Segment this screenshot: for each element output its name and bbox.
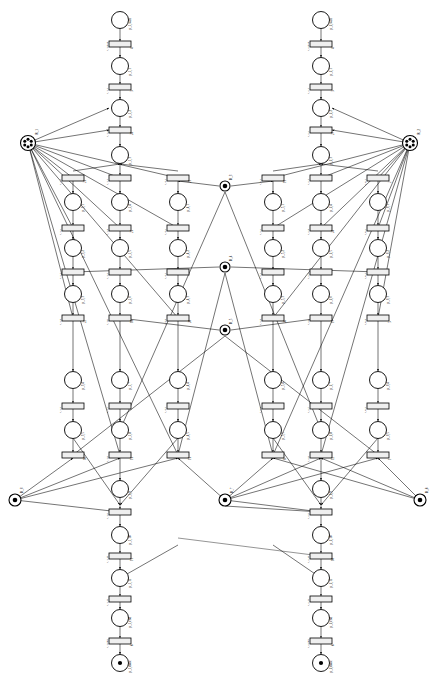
node-label: t_4,5 (163, 407, 167, 414)
node-label: t_1,9 (105, 513, 109, 520)
place-side (170, 240, 187, 257)
node-label: t_3,2 (58, 229, 62, 236)
node-label: t_2,7 (306, 407, 310, 414)
transition-side (62, 225, 84, 231)
node-label: t_5,3 (258, 273, 262, 280)
node-label: p_1,4 (128, 204, 133, 212)
node-label: p_2,5 (329, 250, 334, 258)
node-label: t_1,5 (105, 273, 109, 280)
arc (378, 458, 420, 500)
place-side (170, 194, 187, 211)
node-label: p_5,5 (281, 432, 286, 440)
node-label: t_2,11 (306, 598, 310, 606)
node-label: p_2,11 (329, 578, 334, 587)
arc (332, 108, 410, 143)
arc (321, 458, 420, 500)
node-label: p_2,7 (329, 382, 334, 390)
place-p_2,11 (313, 570, 330, 587)
place-p_1,3 (112, 147, 129, 164)
transition-t_1,1 (109, 84, 131, 90)
place-side (65, 194, 82, 211)
transition-t_2,3 (310, 175, 332, 181)
place-side (65, 422, 82, 439)
node-label: t_2,1 (306, 88, 310, 95)
node-label: p_1,2 (128, 110, 133, 118)
node-label: R_3 (229, 174, 233, 180)
node-label: t_2,5 (306, 273, 310, 280)
node-label: p_1,11 (128, 578, 133, 587)
place-p_1,5 (112, 240, 129, 257)
node-label: t_3,1 (58, 179, 62, 186)
transition-t_2,10 (310, 553, 332, 559)
transition-side (367, 269, 389, 275)
node-label: p_2,start (329, 18, 334, 30)
transition-side (262, 403, 284, 409)
transition-side (167, 175, 189, 181)
transition-t_1,end (109, 638, 131, 644)
node-label: 20 (188, 320, 192, 324)
place-side (65, 240, 82, 257)
transition-t_2,11 (310, 596, 332, 602)
place-side (65, 286, 82, 303)
node-label: p_1,7 (128, 382, 133, 390)
node-label: t_4,2 (163, 229, 167, 236)
node-label: p_1,start (128, 18, 133, 30)
node-label: t_2,6 (306, 319, 310, 326)
node-label: 26 (283, 320, 287, 324)
node-label: t_2,8 (306, 456, 310, 463)
node-label: p_1,end (128, 617, 133, 628)
node-label: R_1 (35, 129, 39, 135)
place-p_2,10 (313, 527, 330, 544)
node-label: p_2,1 (329, 68, 334, 76)
node-label: t_2,4 (306, 229, 310, 236)
arc (273, 458, 420, 500)
node-label: t_1,6 (105, 319, 109, 326)
node-label: p_1,done (128, 660, 133, 673)
place-p_2,5 (313, 240, 330, 257)
node-label: t_1,8 (105, 456, 109, 463)
transition-t_2,5 (310, 269, 332, 275)
node-label: R_4 (229, 255, 233, 261)
node-label: p_1,3 (128, 157, 133, 165)
arc (73, 267, 219, 272)
node-label: 10 (331, 558, 335, 562)
resource-place-R_8 (414, 494, 426, 506)
arc (28, 143, 178, 455)
node-label: p_6,5 (386, 432, 391, 440)
node-label: p_3,1 (81, 204, 86, 212)
node-label: t_1,end (105, 639, 109, 648)
place-p_2,end (313, 610, 330, 627)
place-side (170, 286, 187, 303)
node-label: t_2,3 (306, 179, 310, 186)
node-label: t_3,5 (58, 407, 62, 414)
node-label: t_3,4 (58, 319, 62, 326)
place-side (370, 194, 387, 211)
transition-t_1,6 (109, 315, 131, 321)
node-label: t_4,1 (163, 179, 167, 186)
node-label: t_1,3 (105, 179, 109, 186)
node-label: 15 (188, 457, 192, 461)
node-label: p_6,1 (386, 204, 391, 212)
node-label: t_6,1 (363, 179, 367, 186)
place-side (370, 240, 387, 257)
transition-side (167, 403, 189, 409)
node-label: p_4,1 (186, 204, 191, 212)
node-label: t_2,9 (306, 513, 310, 520)
place-p_2,9 (313, 481, 330, 498)
node-label: t_5,1 (258, 179, 262, 186)
arc (73, 164, 120, 171)
node-label: 13 (130, 457, 134, 461)
transition-t_2,4 (310, 225, 332, 231)
transition-side (167, 269, 189, 275)
label-layer: p_1,startt_1,start4p_1,1t_1,13p_1,2t_1,2… (20, 18, 429, 673)
arc-layer (15, 29, 420, 655)
arc (15, 458, 178, 500)
transition-t_1,11 (109, 596, 131, 602)
place-side (170, 422, 187, 439)
node-label: p_4,3 (186, 296, 191, 304)
node-label: p_3,4 (81, 382, 86, 390)
place-side (370, 286, 387, 303)
node-label: t_1,start (105, 41, 109, 51)
arc (225, 336, 378, 455)
place-side (265, 240, 282, 257)
